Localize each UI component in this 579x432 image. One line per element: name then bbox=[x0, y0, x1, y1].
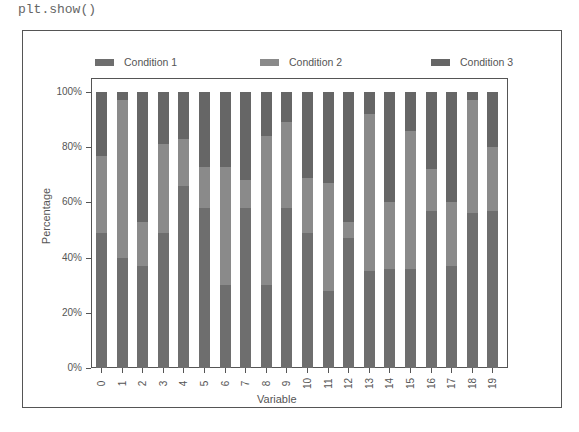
y-tick bbox=[86, 258, 91, 259]
bar-segment-condition-2 bbox=[323, 183, 334, 291]
x-tick bbox=[410, 368, 411, 373]
stacked-bar bbox=[240, 92, 251, 368]
bar-segment-condition-1 bbox=[240, 208, 251, 368]
y-tick-label: 0% bbox=[42, 362, 82, 373]
stacked-bar bbox=[323, 92, 334, 368]
bar-segment-condition-2 bbox=[467, 100, 478, 213]
x-tick-label: 0 bbox=[96, 374, 107, 394]
x-tick-label: 3 bbox=[157, 374, 168, 394]
bar-segment-condition-2 bbox=[364, 114, 375, 271]
bar-segment-condition-3 bbox=[487, 92, 498, 147]
x-tick bbox=[307, 368, 308, 373]
bar-segment-condition-1 bbox=[281, 208, 292, 368]
legend-swatch-icon bbox=[431, 59, 450, 66]
bar-segment-condition-3 bbox=[384, 92, 395, 202]
bar-segment-condition-2 bbox=[405, 131, 416, 269]
x-tick bbox=[431, 368, 432, 373]
bar-segment-condition-1 bbox=[446, 266, 457, 368]
x-tick bbox=[204, 368, 205, 373]
x-tick-label: 4 bbox=[178, 374, 189, 394]
bar-segment-condition-2 bbox=[343, 222, 354, 239]
bar-segment-condition-2 bbox=[261, 136, 272, 285]
y-tick bbox=[86, 147, 91, 148]
bar-segment-condition-2 bbox=[178, 139, 189, 186]
stacked-bar bbox=[467, 92, 478, 368]
bar-segment-condition-1 bbox=[96, 233, 107, 368]
stacked-bar bbox=[384, 92, 395, 368]
x-tick-label: 9 bbox=[281, 374, 292, 394]
stacked-bar bbox=[426, 92, 437, 368]
legend-swatch-icon bbox=[260, 59, 279, 66]
stacked-bar bbox=[302, 92, 313, 368]
y-tick-label: 60% bbox=[42, 196, 82, 207]
x-tick-label: 7 bbox=[240, 374, 251, 394]
x-tick bbox=[183, 368, 184, 373]
legend-item-condition-3: Condition 3 bbox=[431, 56, 513, 68]
x-tick bbox=[266, 368, 267, 373]
bar-segment-condition-2 bbox=[220, 167, 231, 286]
bar-segment-condition-3 bbox=[281, 92, 292, 122]
bar-segment-condition-3 bbox=[302, 92, 313, 178]
legend-item-condition-1: Condition 1 bbox=[95, 56, 177, 68]
y-tick-label: 20% bbox=[42, 307, 82, 318]
x-tick bbox=[348, 368, 349, 373]
bar-segment-condition-3 bbox=[446, 92, 457, 202]
stacked-bar bbox=[158, 92, 169, 368]
legend-label: Condition 1 bbox=[124, 56, 177, 68]
x-axis-title: Variable bbox=[257, 393, 297, 405]
x-tick bbox=[328, 368, 329, 373]
x-tick bbox=[163, 368, 164, 373]
bar-segment-condition-1 bbox=[137, 266, 148, 368]
bar-segment-condition-2 bbox=[487, 147, 498, 210]
y-tick bbox=[86, 313, 91, 314]
bar-segment-condition-3 bbox=[467, 92, 478, 100]
bar-segment-condition-3 bbox=[261, 92, 272, 136]
bar-segment-condition-2 bbox=[199, 167, 210, 208]
bar-segment-condition-1 bbox=[178, 186, 189, 368]
x-tick-label: 14 bbox=[384, 374, 395, 394]
bar-segment-condition-3 bbox=[426, 92, 437, 169]
stacked-bar bbox=[343, 92, 354, 368]
y-tick bbox=[86, 368, 91, 369]
bar-segment-condition-2 bbox=[158, 144, 169, 232]
code-line: plt.show() bbox=[18, 2, 96, 17]
x-tick-label: 19 bbox=[487, 374, 498, 394]
bar-segment-condition-3 bbox=[137, 92, 148, 222]
x-tick-label: 10 bbox=[302, 374, 313, 394]
y-tick-label: 80% bbox=[42, 141, 82, 152]
legend-label: Condition 3 bbox=[460, 56, 513, 68]
bar-segment-condition-2 bbox=[384, 202, 395, 268]
x-tick bbox=[451, 368, 452, 373]
x-tick bbox=[389, 368, 390, 373]
bar-segment-condition-1 bbox=[384, 269, 395, 368]
x-tick-label: 6 bbox=[219, 374, 230, 394]
x-tick bbox=[369, 368, 370, 373]
bar-segment-condition-3 bbox=[405, 92, 416, 131]
bar-segment-condition-2 bbox=[281, 122, 292, 208]
x-tick-label: 11 bbox=[322, 374, 333, 394]
bar-segment-condition-1 bbox=[220, 285, 231, 368]
bar-segment-condition-2 bbox=[240, 180, 251, 208]
bar-segment-condition-1 bbox=[343, 238, 354, 368]
x-tick bbox=[472, 368, 473, 373]
bar-segment-condition-1 bbox=[405, 269, 416, 368]
stacked-bar bbox=[261, 92, 272, 368]
bar-segment-condition-2 bbox=[137, 222, 148, 266]
x-tick-label: 17 bbox=[446, 374, 457, 394]
bar-segment-condition-2 bbox=[446, 202, 457, 265]
x-tick-label: 18 bbox=[466, 374, 477, 394]
bar-segment-condition-3 bbox=[220, 92, 231, 167]
bar-segment-condition-1 bbox=[117, 258, 128, 368]
bar-segment-condition-3 bbox=[364, 92, 375, 114]
x-tick bbox=[101, 368, 102, 373]
bar-segment-condition-3 bbox=[178, 92, 189, 139]
bar-segment-condition-2 bbox=[302, 178, 313, 233]
bar-segment-condition-3 bbox=[323, 92, 334, 183]
x-tick-label: 12 bbox=[343, 374, 354, 394]
y-tick bbox=[86, 92, 91, 93]
bar-segment-condition-1 bbox=[261, 285, 272, 368]
stacked-bar bbox=[487, 92, 498, 368]
bar-segment-condition-3 bbox=[158, 92, 169, 144]
bar-segment-condition-1 bbox=[158, 233, 169, 368]
stacked-bar bbox=[405, 92, 416, 368]
